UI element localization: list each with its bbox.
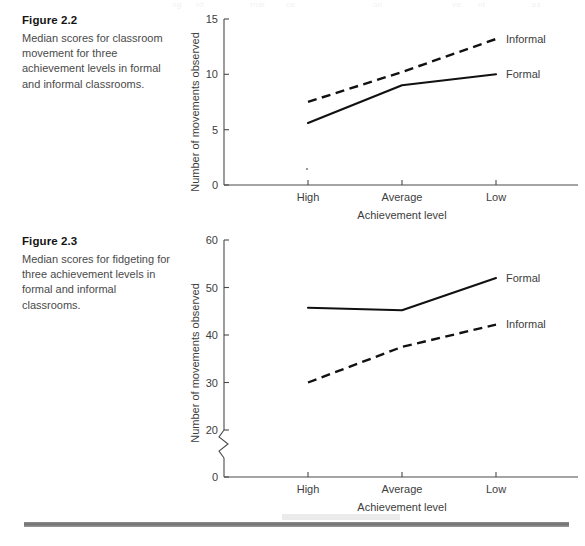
figure-2-3-ytick-0: 0 xyxy=(212,471,218,483)
figure-2-2-ytick-10: 10 xyxy=(206,68,218,80)
figure-2-2-x-axis-title: Achievement level xyxy=(357,209,446,221)
figure-2-3-chart: Number of movements observed 0 20 30 40 … xyxy=(186,228,585,520)
figure-2-2-caption-block: Figure 2.2 Median scores for classroom m… xyxy=(22,14,174,92)
figure-2-3-label-formal: Formal xyxy=(506,272,540,284)
figure-2-2-ytick-5: 5 xyxy=(212,124,218,136)
figure-2-2-series-informal xyxy=(308,39,496,102)
figure-2-3-cat-high: High xyxy=(297,483,320,495)
figure-2-3-x-axis-title: Achievement level xyxy=(357,501,446,513)
scan-speck xyxy=(306,168,308,170)
figure-2-2-cat-low: Low xyxy=(486,191,506,203)
figure-2-2-x-ticks xyxy=(308,180,496,185)
figure-2-3-x-ticks xyxy=(308,472,496,477)
figure-2-3-title: Figure 2.3 xyxy=(22,235,174,247)
figure-2-2-ytick-15: 15 xyxy=(206,13,218,25)
figure-2-2-y-axis-title: Number of movements observed xyxy=(189,32,201,192)
figure-2-2-label-formal: Formal xyxy=(506,68,540,80)
figure-2-3-y-axis-title: Number of movements observed xyxy=(189,283,201,443)
figure-2-2-caption-text: Median scores for classroom movement for… xyxy=(22,31,174,92)
figure-2-3-svg: Number of movements observed 0 20 30 40 … xyxy=(186,228,585,520)
figure-2-3: Figure 2.3 Median scores for fidgeting f… xyxy=(0,228,585,520)
figure-2-3-series-informal xyxy=(308,325,496,383)
figure-2-3-caption-text: Median scores for fidgeting for three ac… xyxy=(22,252,174,313)
figure-2-3-cat-average: Average xyxy=(382,483,423,495)
page-bottom-rule xyxy=(24,522,569,527)
figure-2-2-ytick-0: 0 xyxy=(212,179,218,191)
figure-2-3-label-informal: Informal xyxy=(506,318,546,330)
figure-2-2: Figure 2.2 Median scores for classroom m… xyxy=(0,0,585,225)
figure-2-3-ytick-40: 40 xyxy=(206,329,218,341)
figure-2-2-label-informal: Informal xyxy=(506,33,546,45)
figure-2-3-ytick-30: 30 xyxy=(206,377,218,389)
figure-2-3-ytick-50: 50 xyxy=(206,282,218,294)
figure-2-2-series-formal xyxy=(308,74,496,123)
figure-2-3-ytick-20: 20 xyxy=(206,424,218,436)
figure-2-2-chart: Number of movements observed 0 5 10 15 xyxy=(186,8,585,223)
figure-2-3-y-axis-break xyxy=(219,430,228,458)
figure-2-3-ytick-60: 60 xyxy=(206,234,218,246)
figure-2-2-cat-high: High xyxy=(297,191,320,203)
figure-2-3-cat-low: Low xyxy=(486,483,506,495)
figure-2-3-caption-block: Figure 2.3 Median scores for fidgeting f… xyxy=(22,235,174,313)
page-bottom-smudge xyxy=(282,514,400,520)
figure-2-2-svg: Number of movements observed 0 5 10 15 xyxy=(186,8,585,223)
figure-2-2-title: Figure 2.2 xyxy=(22,14,174,26)
figure-2-2-cat-average: Average xyxy=(382,191,423,203)
figure-2-2-y-ticks: 0 5 10 15 xyxy=(206,13,229,191)
figure-2-3-series-formal xyxy=(308,278,496,310)
